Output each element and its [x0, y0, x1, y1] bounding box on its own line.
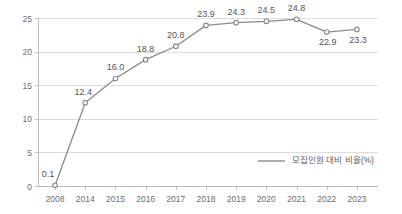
- data-point-label: 23.3: [349, 35, 367, 45]
- data-point-marker: [294, 17, 299, 22]
- data-point-label: 16.0: [107, 62, 125, 72]
- x-tick-label-2014: 2014: [76, 194, 95, 204]
- data-point-marker: [355, 27, 360, 32]
- x-tick-label-2015: 2015: [106, 194, 125, 204]
- y-axis-tick-labels: 0510152025: [23, 14, 33, 192]
- x-tick-label-2017: 2017: [166, 194, 185, 204]
- data-point-label: 24.8: [288, 3, 306, 13]
- x-tick-label-2008: 2008: [46, 194, 65, 204]
- x-tick-label-2023: 2023: [347, 194, 366, 204]
- data-point-marker: [53, 183, 58, 188]
- data-point-label: 23.9: [197, 9, 215, 19]
- chart-legend: 모집인원 대비 비율(%): [258, 155, 374, 165]
- data-point-marker: [204, 23, 209, 28]
- data-point-marker: [143, 57, 148, 62]
- x-tick-label-2019: 2019: [227, 194, 246, 204]
- data-point-label: 20.8: [167, 30, 185, 40]
- x-tick-label-2016: 2016: [136, 194, 155, 204]
- x-axis-tick-labels: 2008201420152016201720182019202020212022…: [46, 194, 367, 204]
- data-point-marker: [113, 76, 118, 81]
- data-point-marker: [264, 19, 269, 24]
- data-point-marker: [174, 44, 179, 49]
- data-point-label: 12.4: [75, 87, 93, 97]
- x-tick-label-2022: 2022: [317, 194, 336, 204]
- x-tick-label-2021: 2021: [287, 194, 306, 204]
- y-tick-label-10: 10: [23, 114, 33, 124]
- data-point-marker: [234, 20, 239, 25]
- data-point-label: 24.3: [227, 7, 245, 17]
- line-chart: 0510152025 20082014201520162017201820192…: [0, 0, 402, 214]
- y-tick-label-20: 20: [23, 47, 33, 57]
- y-tick-label-15: 15: [23, 81, 33, 91]
- data-point-marker: [83, 100, 88, 105]
- x-tick-label-2018: 2018: [197, 194, 216, 204]
- data-point-label: 22.9: [319, 37, 337, 47]
- y-tick-label-0: 0: [27, 182, 32, 192]
- data-point-label: 0.1: [42, 169, 55, 179]
- y-tick-label-5: 5: [27, 148, 32, 158]
- data-point-label: 24.5: [258, 5, 276, 15]
- x-tick-label-2020: 2020: [257, 194, 276, 204]
- y-tick-label-25: 25: [23, 14, 33, 24]
- data-point-marker: [324, 30, 329, 35]
- chart-canvas: 0510152025 20082014201520162017201820192…: [0, 0, 402, 214]
- legend-label: 모집인원 대비 비율(%): [292, 155, 374, 165]
- data-point-label: 18.8: [137, 44, 155, 54]
